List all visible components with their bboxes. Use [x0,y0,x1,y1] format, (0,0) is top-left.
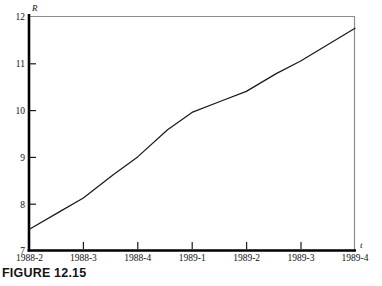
x-tick-label: 1989-4 [342,253,369,262]
x-tick-label: 1988-3 [70,253,97,262]
plot-frame [29,17,355,251]
y-tick-label: 10 [16,106,26,116]
x-axis-ticks [83,242,301,249]
x-tick-label: 1989-3 [288,253,315,262]
y-tick-label: 8 [20,200,25,210]
line-chart-svg: 12 11 10 9 8 7 1988-2 1988-3 1988-4 1989… [0,0,382,262]
y-tick-label: 9 [20,153,25,163]
y-tick-label: 11 [16,59,25,69]
x-axis-label: t [360,240,363,250]
y-tick-label: 12 [16,12,26,22]
x-tick-label: 1988-2 [16,253,43,262]
x-tick-label: 1989-2 [233,253,260,262]
x-tick-label: 1989-1 [179,253,206,262]
x-tick-label: 1988-4 [124,253,151,262]
y-tick-labels: 12 11 10 9 8 7 [16,12,26,256]
chart-plot-area: 12 11 10 9 8 7 1988-2 1988-3 1988-4 1989… [0,0,382,262]
figure-caption: FIGURE 12.15 [2,266,86,280]
data-series-line [29,28,355,229]
x-tick-labels: 1988-2 1988-3 1988-4 1989-1 1989-2 1989-… [16,253,369,262]
y-axis-label: R [31,3,38,13]
figure-container: 12 11 10 9 8 7 1988-2 1988-3 1988-4 1989… [0,0,382,286]
